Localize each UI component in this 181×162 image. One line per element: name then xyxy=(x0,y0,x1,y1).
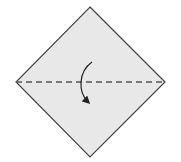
origami-diagram xyxy=(0,0,181,162)
